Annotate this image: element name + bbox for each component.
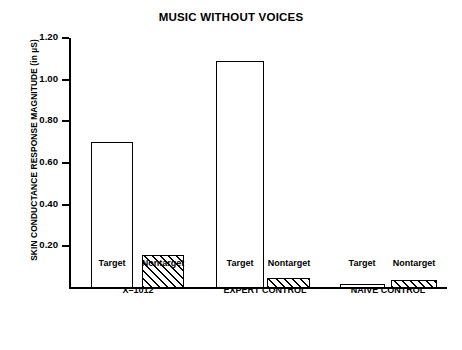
- x-axis-category-label: Nontarget: [123, 258, 203, 268]
- y-axis-tick: 1.00: [62, 79, 69, 81]
- x-axis-group-label: EXPERT CONTROL: [205, 285, 325, 295]
- y-axis-tick-label: 0.80: [39, 114, 58, 125]
- y-axis-label-container: SKIN CONDUCTANCE RESPONSE MAGNITUDE (in …: [23, 20, 39, 280]
- y-axis-tick-label: 0.60: [39, 156, 58, 167]
- chart-title: MUSIC WITHOUT VOICES: [0, 11, 462, 23]
- y-axis-tick: 0.20: [62, 245, 69, 247]
- x-axis-category-label: Nontarget: [374, 258, 454, 268]
- y-axis-tick: 0.80: [62, 120, 69, 122]
- y-axis-tick-label: 0.20: [39, 239, 58, 250]
- bar-expert-control-target: [216, 61, 264, 288]
- x-axis-group-label: X–1012: [78, 285, 198, 295]
- y-axis-line: [69, 38, 71, 289]
- x-axis-group-label: NAIVE CONTROL: [328, 285, 448, 295]
- y-axis-tick: 0.60: [62, 162, 69, 164]
- plot-area: 1.201.000.800.600.400.20: [69, 38, 447, 289]
- y-axis-label: SKIN CONDUCTANCE RESPONSE MAGNITUDE (in …: [29, 39, 39, 261]
- y-axis-tick: 0.40: [62, 204, 69, 206]
- y-axis-tick-label: 1.00: [39, 73, 58, 84]
- x-axis-category-label: Nontarget: [249, 258, 329, 268]
- y-axis-tick-label: 0.40: [39, 198, 58, 209]
- chart-figure: MUSIC WITHOUT VOICES SKIN CONDUCTANCE RE…: [0, 0, 462, 350]
- y-axis-tick-label: 1.20: [39, 31, 58, 42]
- y-axis-tick: 1.20: [62, 37, 69, 39]
